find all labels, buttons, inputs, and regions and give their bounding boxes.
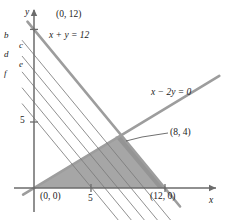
objective-label-f: f bbox=[4, 69, 7, 78]
point-label-0-0: (0, 0) bbox=[40, 192, 61, 202]
x-tick-label-5: 5 bbox=[88, 194, 93, 204]
equation-label-x-minus-2y: x − 2y = 0 bbox=[151, 88, 191, 98]
y-tick-label-5: 5 bbox=[20, 116, 25, 126]
objective-label-b: b bbox=[4, 31, 9, 40]
linear-programming-figure bbox=[0, 0, 226, 220]
point-label-12-0: (12, 0) bbox=[150, 192, 175, 202]
objective-label-d: d bbox=[4, 50, 9, 59]
point-label-0-12: (0, 12) bbox=[56, 10, 81, 20]
point-label-8-4: (8, 4) bbox=[170, 128, 191, 138]
equation-label-x-plus-y: x + y = 12 bbox=[49, 31, 89, 41]
objective-label-c: c bbox=[19, 41, 23, 50]
y-axis-label: y bbox=[25, 8, 29, 18]
x-axis-label: x bbox=[209, 196, 213, 206]
objective-label-e: e bbox=[19, 60, 23, 69]
